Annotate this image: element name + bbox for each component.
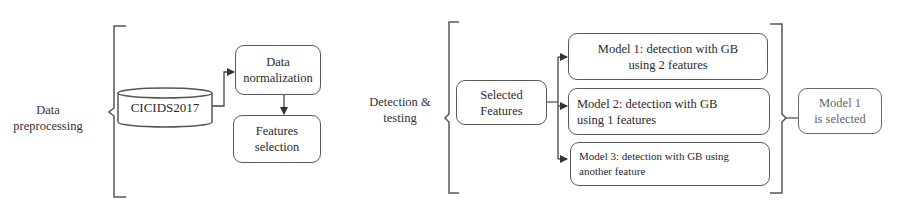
node-line: Features [480, 103, 522, 119]
label-line: Detection & [362, 94, 438, 110]
label-line: preprocessing [2, 118, 94, 134]
node-line: Selected [480, 87, 522, 103]
arrow-cylinder-to-normalization [212, 72, 234, 106]
selected-features-node: Selected Features [456, 80, 547, 125]
node-line: selection [255, 139, 299, 155]
features-selection-node: Features selection [233, 115, 321, 163]
node-line: Model 1: detection with GB [598, 41, 738, 57]
node-line: Features [255, 123, 299, 139]
model-3-node: Model 3: detection with GB using another… [570, 142, 770, 186]
node-line: another feature [579, 164, 729, 179]
node-line: using 2 features [598, 57, 738, 73]
node-line: Model 2: detection with GB [577, 96, 717, 112]
data-normalization-node: Data normalization [235, 45, 321, 95]
result-node: Model 1 is selected [798, 88, 882, 134]
label-line: testing [362, 110, 438, 126]
node-line: Model 3: detection with GB using [579, 149, 729, 164]
label-line: Data [2, 102, 94, 118]
model-1-node: Model 1: detection with GB using 2 featu… [568, 33, 768, 80]
section-label-preprocessing: Data preprocessing [2, 102, 94, 134]
datasource-label: CICIDS2017 [118, 100, 212, 116]
node-line: Model 1 [814, 95, 866, 111]
right-bracket [770, 24, 786, 193]
node-line: normalization [243, 70, 312, 86]
node-line: using 1 features [577, 112, 717, 128]
model-2-node: Model 2: detection with GB using 1 featu… [568, 88, 770, 135]
node-line: is selected [814, 111, 866, 127]
node-line: Data [243, 54, 312, 70]
section-label-detection: Detection & testing [362, 94, 438, 126]
